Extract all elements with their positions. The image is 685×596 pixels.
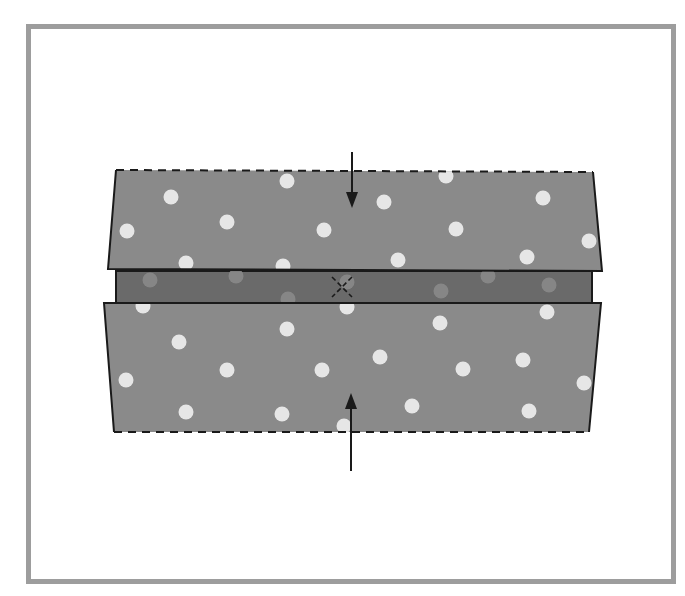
polka-dot bbox=[456, 362, 471, 377]
polka-dot bbox=[340, 275, 355, 290]
polka-dot bbox=[120, 224, 135, 239]
polka-dot bbox=[275, 407, 290, 422]
polka-dot bbox=[582, 234, 597, 249]
polka-dot bbox=[179, 256, 194, 271]
polka-dot bbox=[377, 195, 392, 210]
polka-dot bbox=[522, 404, 537, 419]
polka-dot bbox=[280, 322, 295, 337]
polka-dot bbox=[220, 363, 235, 378]
polka-dot bbox=[542, 278, 557, 293]
polka-dot bbox=[373, 350, 388, 365]
polka-dot bbox=[405, 399, 420, 414]
polka-dot bbox=[179, 405, 194, 420]
polka-dot bbox=[315, 363, 330, 378]
polka-dot bbox=[516, 353, 531, 368]
polka-dot bbox=[434, 284, 449, 299]
polka-dot bbox=[449, 222, 464, 237]
bottom-fold-panel bbox=[104, 299, 601, 434]
polka-dot bbox=[391, 253, 406, 268]
polka-dot bbox=[172, 335, 187, 350]
polka-dot bbox=[577, 376, 592, 391]
polka-dot bbox=[164, 190, 179, 205]
top-fold-panel bbox=[108, 169, 602, 274]
polka-dot bbox=[280, 174, 295, 189]
polka-dot bbox=[220, 215, 235, 230]
polka-dot bbox=[119, 373, 134, 388]
polka-dot bbox=[520, 250, 535, 265]
polka-dot bbox=[536, 191, 551, 206]
polka-dot bbox=[540, 305, 555, 320]
center-strip bbox=[116, 269, 592, 307]
polka-dot bbox=[317, 223, 332, 238]
polka-dot bbox=[433, 316, 448, 331]
fold-diagram bbox=[0, 0, 685, 596]
polka-dot bbox=[143, 273, 158, 288]
